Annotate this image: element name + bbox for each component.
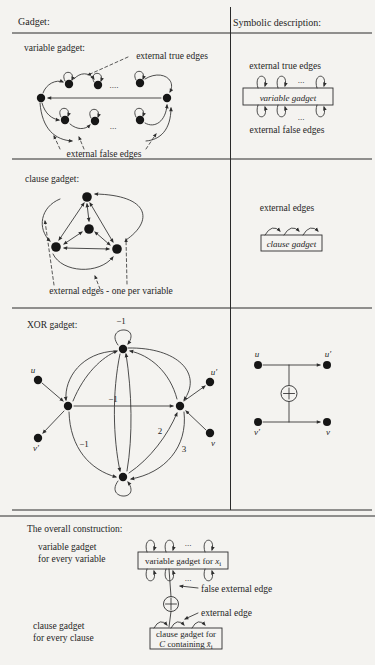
clause-gadget-symbolic: external edges clause gadget: [260, 203, 322, 251]
column-header-gadget: Gadget:: [18, 16, 50, 27]
xor-icon: [164, 597, 179, 612]
ellipsis: ...: [185, 573, 192, 583]
node-label-v: v: [211, 438, 215, 448]
node-label-u-prime: u′: [211, 367, 219, 377]
xor-gadget-drawing: XOR gadget: −1 −1 −1 2 3 u: [27, 316, 218, 496]
xor-gadget-label: XOR gadget:: [27, 320, 77, 330]
symbolic-true-edges-label: external true edges: [249, 61, 321, 71]
node-label-v: v: [326, 427, 330, 437]
false-external-edge-label: false external edge: [201, 584, 272, 594]
xor-gadget-symbolic: u u′ v′ v: [254, 349, 332, 437]
graph-node-u: [254, 361, 262, 369]
graph-node: [176, 402, 184, 410]
node-label-u-prime: u′: [325, 349, 333, 359]
clause-gadget-label: clause gadget:: [25, 174, 79, 184]
ellipsis: ...: [185, 538, 192, 548]
external-edge-label: external edge: [201, 608, 252, 618]
variable-caption: for every variable: [38, 554, 106, 564]
ellipsis: ...: [298, 112, 305, 122]
graph-node-u-prime: [206, 378, 214, 386]
external-true-edges-label: external true edges: [136, 51, 208, 61]
variable-box-label: variable gadget for xi: [145, 556, 221, 568]
weight-label: 3: [182, 444, 187, 454]
graph-node: [65, 80, 73, 88]
node-label-u: u: [255, 349, 260, 359]
graph-node-v-prime: [254, 418, 262, 426]
variable-gadget-symbolic: external true edges variable gadget ... …: [243, 61, 333, 135]
graph-node: [119, 473, 127, 481]
graph-node-u: [34, 376, 42, 384]
xor-icon: [281, 386, 297, 402]
gadget-figure: Gadget: Symbolic description: variable g…: [0, 0, 375, 665]
column-header-symbolic: Symbolic description:: [233, 17, 321, 28]
graph-node: [37, 94, 45, 102]
overall-construction: The overall construction: variable gadge…: [27, 524, 272, 651]
graph-node: [136, 79, 144, 87]
variable-gadget-drawing: variable gadget: .... ... external tru: [24, 43, 208, 159]
graph-node: [163, 94, 171, 102]
clause-gadget-drawing: clause gadget: external edges - one per …: [25, 174, 173, 296]
graph-node: [94, 81, 102, 89]
external-false-edges-label: external false edges: [67, 149, 142, 159]
clause-box-line1: clause gadget for: [156, 629, 216, 639]
scanned-figure-page: Gadget: Symbolic description: variable g…: [0, 0, 375, 665]
graph-node: [119, 345, 127, 353]
clause-caption: for every clause: [33, 633, 94, 643]
graph-node-v: [206, 429, 214, 437]
graph-node: [51, 242, 61, 252]
overall-title: The overall construction:: [27, 524, 123, 534]
external-edges-annotation: external edges - one per variable: [49, 286, 173, 296]
weight-label: −1: [116, 316, 126, 326]
weight-label: −1: [108, 394, 118, 404]
variable-caption: variable gadget: [38, 542, 97, 552]
graph-node-u-prime: [323, 361, 331, 369]
variable-gadget-label: variable gadget:: [24, 43, 85, 53]
ellipsis: ...: [110, 121, 117, 131]
graph-node-v: [323, 418, 331, 426]
node-label-v-prime: v′: [254, 427, 261, 437]
table-grid: [0, 7, 375, 516]
weight-label: 2: [158, 426, 163, 436]
graph-node: [136, 116, 144, 124]
graph-node: [64, 402, 72, 410]
ellipsis: ...: [298, 75, 305, 85]
graph-node: [61, 116, 69, 124]
node-label-v-prime: v′: [33, 443, 40, 453]
symbolic-external-edges-label: external edges: [260, 203, 315, 213]
clause-gadget-box-label: clause gadget: [267, 239, 317, 249]
graph-node: [84, 224, 94, 234]
weight-label: −1: [79, 439, 89, 449]
graph-node-v-prime: [34, 434, 42, 442]
symbolic-false-edges-label: external false edges: [250, 125, 325, 135]
node-label-u: u: [31, 365, 36, 375]
graph-node: [91, 117, 99, 125]
variable-gadget-box-label: variable gadget: [260, 93, 317, 103]
clause-caption: clause gadget: [33, 621, 85, 631]
graph-node: [82, 192, 92, 202]
graph-node: [112, 244, 122, 254]
ellipsis: ....: [110, 80, 119, 90]
